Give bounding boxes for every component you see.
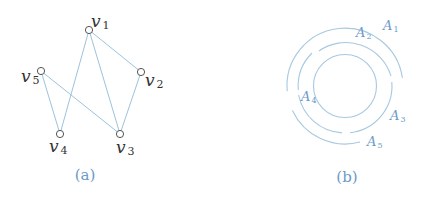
label-v4: v4 — [49, 136, 68, 157]
edge-v5-v3 — [41, 71, 120, 134]
edge-v1-v3 — [89, 30, 120, 134]
panel-b-arcs: A1 A2 A3 A4 A5 (b) — [287, 18, 405, 186]
label-v3: v3 — [116, 137, 135, 158]
label-v2: v2 — [145, 70, 164, 91]
node-v2 — [137, 68, 144, 75]
label-v5: v5 — [21, 66, 40, 87]
arc-a3 — [350, 82, 392, 133]
figure: v1 v2 v3 v4 v5 (a) A1 — [0, 0, 424, 198]
edge-v2-v3 — [120, 72, 141, 134]
panel-a-graph: v1 v2 v3 v4 v5 (a) — [21, 11, 164, 184]
edge-v5-v4 — [41, 71, 60, 134]
label-a1: A1 — [382, 18, 398, 34]
edge-v1-v4 — [60, 30, 89, 134]
inner-circle — [314, 55, 377, 118]
label-a2: A2 — [355, 25, 371, 41]
label-a5: A5 — [366, 134, 382, 150]
label-a3: A3 — [389, 108, 405, 124]
arc-a5 — [292, 111, 360, 144]
arc-a2-left — [298, 53, 312, 90]
label-v1: v1 — [91, 11, 110, 32]
arc-a1 — [287, 28, 402, 91]
caption-b: (b) — [336, 168, 357, 186]
edge-v1-v2 — [89, 30, 141, 72]
caption-a: (a) — [75, 166, 96, 184]
arc-a2 — [319, 43, 391, 77]
